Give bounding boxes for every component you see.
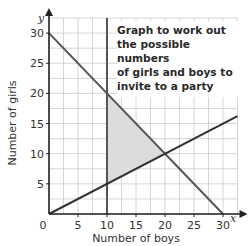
- chart-title-note: Graph to work out the possible numbers o…: [117, 21, 245, 97]
- y-axis-label: Number of girls: [6, 80, 19, 165]
- svg-text:10: 10: [30, 148, 44, 161]
- svg-text:15: 15: [129, 219, 143, 232]
- y-axis-variable: y: [37, 12, 45, 25]
- x-axis-variable: x: [230, 212, 237, 225]
- note-line: invite to a party: [117, 79, 245, 93]
- svg-text:0: 0: [40, 219, 47, 232]
- svg-text:15: 15: [30, 118, 44, 131]
- svg-text:30: 30: [216, 219, 230, 232]
- svg-text:25: 25: [30, 57, 44, 70]
- svg-text:30: 30: [30, 27, 44, 40]
- note-line: Graph to work out: [117, 23, 245, 37]
- note-line: of girls and boys to: [117, 65, 245, 79]
- x-axis-label: Number of boys: [92, 232, 180, 245]
- svg-text:5: 5: [75, 219, 82, 232]
- svg-text:20: 20: [158, 219, 172, 232]
- svg-text:10: 10: [100, 219, 114, 232]
- svg-text:20: 20: [30, 87, 44, 100]
- note-line: the possible numbers: [117, 37, 245, 65]
- svg-text:25: 25: [187, 219, 201, 232]
- svg-text:5: 5: [37, 178, 44, 191]
